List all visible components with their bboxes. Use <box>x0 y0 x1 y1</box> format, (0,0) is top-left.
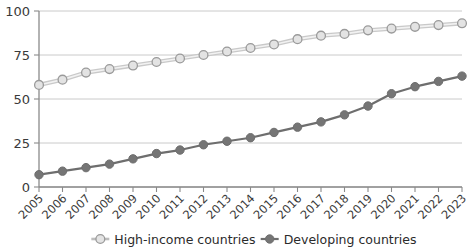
x-tick-label: 2011 <box>157 191 188 222</box>
x-tick-label: 2010 <box>133 191 164 222</box>
data-point[interactable] <box>364 102 372 110</box>
data-point[interactable] <box>340 29 349 38</box>
x-tick-label: 2006 <box>39 191 70 222</box>
x-tick-label: 2020 <box>368 191 399 222</box>
legend-marker-filled-circle-icon <box>265 235 273 243</box>
x-tick-label: 2018 <box>321 191 352 222</box>
line-chart: 0255075100 20052006200720082009201020112… <box>0 0 476 251</box>
series-line <box>39 23 462 85</box>
data-point[interactable] <box>387 24 396 33</box>
x-tick-label: 2021 <box>392 191 423 222</box>
data-point[interactable] <box>317 118 325 126</box>
data-point[interactable] <box>35 81 44 90</box>
data-point[interactable] <box>434 77 442 85</box>
data-point[interactable] <box>82 68 91 77</box>
data-point[interactable] <box>293 35 302 44</box>
chart-canvas: 0255075100 20052006200720082009201020112… <box>0 0 476 251</box>
gridlines <box>39 11 462 187</box>
series-line-halo <box>39 23 462 85</box>
x-tick-label: 2023 <box>439 191 470 222</box>
data-point[interactable] <box>199 141 207 149</box>
data-point[interactable] <box>58 167 66 175</box>
y-tick-label: 25 <box>13 136 30 151</box>
data-point[interactable] <box>364 26 373 35</box>
data-point[interactable] <box>105 160 113 168</box>
x-tick-label: 2012 <box>180 191 211 222</box>
data-point[interactable] <box>387 90 395 98</box>
data-point[interactable] <box>458 72 466 80</box>
x-axis: 2005200620072008200920102011201220132014… <box>16 187 470 222</box>
legend-label[interactable]: High-income countries <box>114 232 255 247</box>
data-point[interactable] <box>176 54 185 63</box>
data-point[interactable] <box>270 40 279 49</box>
x-tick-label: 2016 <box>274 191 305 222</box>
data-point[interactable] <box>246 44 255 53</box>
data-point[interactable] <box>223 47 232 56</box>
x-tick-label: 2014 <box>227 191 258 222</box>
data-point[interactable] <box>293 123 301 131</box>
data-point[interactable] <box>35 170 43 178</box>
y-tick-label: 50 <box>13 92 30 107</box>
x-tick-label: 2017 <box>298 191 329 222</box>
data-point[interactable] <box>458 19 467 28</box>
data-point[interactable] <box>434 21 443 30</box>
chart-legend: High-income countriesDeveloping countrie… <box>91 232 416 247</box>
y-tick-label: 100 <box>5 4 30 19</box>
data-point[interactable] <box>411 22 420 31</box>
data-point[interactable] <box>105 65 114 74</box>
x-tick-label: 2007 <box>63 191 94 222</box>
x-tick-label: 2008 <box>86 191 117 222</box>
data-point[interactable] <box>317 31 326 40</box>
x-tick-label: 2009 <box>110 191 141 222</box>
y-axis: 0255075100 <box>5 4 39 195</box>
x-tick-label: 2022 <box>415 191 446 222</box>
x-tick-label: 2013 <box>204 191 235 222</box>
y-tick-label: 75 <box>13 48 30 63</box>
series-line <box>39 76 462 175</box>
data-point[interactable] <box>223 137 231 145</box>
data-point[interactable] <box>152 149 160 157</box>
data-point[interactable] <box>340 111 348 119</box>
x-tick-label: 2005 <box>16 191 47 222</box>
legend-label[interactable]: Developing countries <box>284 232 417 247</box>
y-tick-label: 0 <box>22 180 30 195</box>
data-point[interactable] <box>246 134 254 142</box>
data-point[interactable] <box>199 51 208 60</box>
data-point[interactable] <box>129 61 138 70</box>
data-point[interactable] <box>129 155 137 163</box>
legend-marker-open-circle-icon <box>96 235 105 244</box>
data-point[interactable] <box>82 163 90 171</box>
data-point[interactable] <box>176 146 184 154</box>
data-point[interactable] <box>152 58 161 67</box>
x-tick-label: 2019 <box>345 191 376 222</box>
data-point[interactable] <box>411 82 419 90</box>
x-tick-label: 2015 <box>251 191 282 222</box>
data-point[interactable] <box>270 128 278 136</box>
data-point[interactable] <box>58 75 67 84</box>
